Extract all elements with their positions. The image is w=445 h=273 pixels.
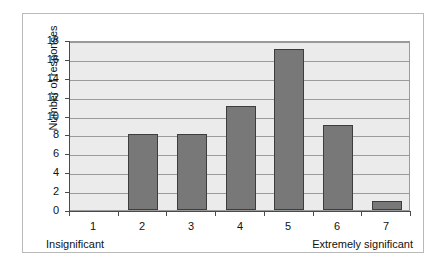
x-axis-tick-label: 4 bbox=[220, 220, 260, 232]
x-axis-tick-label: 3 bbox=[171, 220, 211, 232]
y-axis-tick-label: 18 bbox=[33, 35, 59, 46]
x-axis-tick bbox=[118, 212, 119, 216]
y-axis-tick-label: 6 bbox=[33, 148, 59, 159]
y-axis-tick bbox=[65, 98, 69, 99]
x-axis-line bbox=[69, 211, 411, 212]
x-axis-tick-label: 6 bbox=[317, 220, 357, 232]
y-axis-tick bbox=[65, 192, 69, 193]
bar bbox=[128, 134, 158, 210]
x-axis-tick bbox=[361, 212, 362, 216]
y-axis-tick-label: 14 bbox=[33, 73, 59, 84]
y-axis-tick bbox=[65, 173, 69, 174]
bar bbox=[372, 201, 402, 210]
bar bbox=[274, 49, 304, 210]
y-axis-tick-label: 10 bbox=[33, 111, 59, 122]
bar bbox=[323, 125, 353, 210]
plot-area bbox=[69, 41, 410, 211]
y-axis-tick bbox=[65, 41, 69, 42]
x-axis-tick bbox=[410, 212, 411, 216]
y-axis-tick bbox=[65, 154, 69, 155]
gridline bbox=[70, 99, 409, 100]
y-axis-line bbox=[69, 41, 70, 212]
y-axis-tick bbox=[65, 79, 69, 80]
y-axis-tick-label: 0 bbox=[33, 205, 59, 216]
x-axis-tick bbox=[166, 212, 167, 216]
x-axis-tick bbox=[264, 212, 265, 216]
x-axis-tick-label: 1 bbox=[73, 220, 113, 232]
bar bbox=[226, 106, 256, 210]
y-axis-tick-label: 16 bbox=[33, 54, 59, 65]
y-axis-tick-label: 12 bbox=[33, 92, 59, 103]
bar bbox=[177, 134, 207, 210]
x-axis-tick bbox=[215, 212, 216, 216]
scale-high-anchor-label: Extremely significant bbox=[312, 238, 413, 250]
y-axis-tick-label: 4 bbox=[33, 167, 59, 178]
y-axis-tick-label: 2 bbox=[33, 186, 59, 197]
x-axis-tick-label: 5 bbox=[268, 220, 308, 232]
x-axis-tick bbox=[313, 212, 314, 216]
y-axis-tick bbox=[65, 135, 69, 136]
y-axis-tick bbox=[65, 117, 69, 118]
x-axis-tick-label: 7 bbox=[366, 220, 406, 232]
chart-figure-frame: Number of responses 024681012141618 1234… bbox=[22, 13, 424, 253]
gridline bbox=[70, 42, 409, 43]
x-axis-tick bbox=[69, 212, 70, 216]
scale-low-anchor-label: Insignificant bbox=[46, 238, 104, 250]
x-axis-tick-label: 2 bbox=[122, 220, 162, 232]
y-axis-tick-label: 8 bbox=[33, 129, 59, 140]
gridline bbox=[70, 80, 409, 81]
y-axis-tick bbox=[65, 60, 69, 61]
gridline bbox=[70, 61, 409, 62]
